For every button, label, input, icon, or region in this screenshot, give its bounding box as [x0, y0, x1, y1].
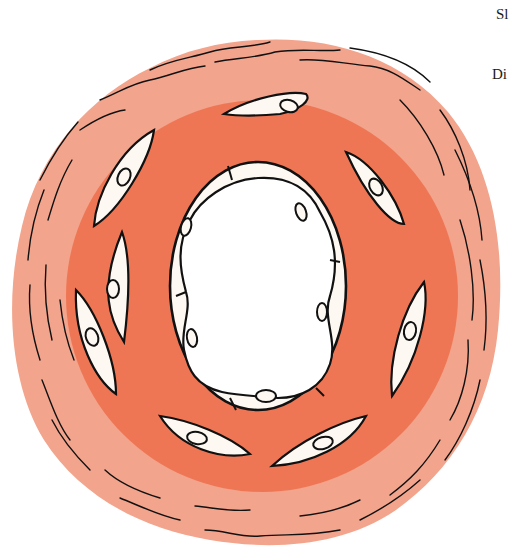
label-top-truncated: Sl	[496, 6, 509, 23]
label-middle-truncated: Di	[492, 66, 507, 83]
vessel-lumen	[181, 178, 335, 398]
vessel-cross-section-diagram	[0, 0, 517, 554]
